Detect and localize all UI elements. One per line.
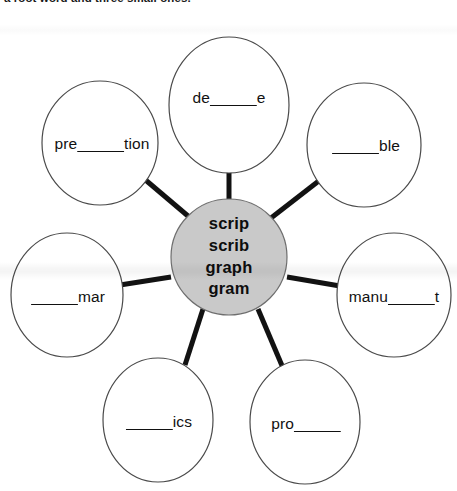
suffix-mar: mar	[78, 288, 105, 305]
suffix-t: t	[435, 288, 439, 305]
hub-word-3: graph	[206, 257, 253, 279]
word-bubble-pro-label: pro	[271, 415, 341, 433]
blank-mar[interactable]	[31, 288, 78, 305]
hub-word-2: scrib	[206, 235, 253, 257]
word-bubble-mar-label: mar	[31, 288, 105, 306]
prefix-pre: pre	[55, 135, 78, 152]
suffix-ics: ics	[173, 413, 192, 430]
word-bubble-ics-label: ics	[126, 413, 192, 431]
blank-manu-t[interactable]	[388, 288, 435, 305]
prefix-pro: pro	[271, 415, 294, 432]
suffix-e: e	[257, 89, 266, 106]
blank-pre-tion[interactable]	[77, 135, 124, 152]
prefix-de: de	[193, 89, 210, 106]
word-bubble-de-e-label: de e	[193, 89, 266, 107]
spoke-to-right	[287, 277, 340, 286]
suffix-ble: ble	[379, 137, 400, 154]
word-bubble-pre-tion-label: pre tion	[55, 135, 150, 153]
spoke-to-left	[120, 277, 171, 285]
prefix-manu: manu	[349, 288, 388, 305]
blank-ics[interactable]	[126, 413, 173, 430]
blank-ble[interactable]	[332, 137, 379, 154]
spoke-to-bottom-right	[258, 309, 283, 368]
spoke-to-top-left	[142, 177, 188, 216]
word-bubble-manu-t-label: manu t	[349, 288, 439, 306]
blank-de-e[interactable]	[210, 89, 257, 106]
spoke-to-bottom-left	[185, 309, 203, 365]
suffix-tion: tion	[124, 135, 149, 152]
spoke-to-top-right	[271, 180, 320, 218]
hub-word-1: scrip	[206, 213, 253, 235]
word-bubble-ble-label: ble	[332, 137, 400, 155]
worksheet-page: a root word and three small ones. scrip …	[0, 0, 457, 491]
blank-pro[interactable]	[294, 415, 341, 432]
root-words-hub-labels: scrip scrib graph gram	[206, 213, 253, 300]
hub-word-4: gram	[206, 279, 253, 301]
